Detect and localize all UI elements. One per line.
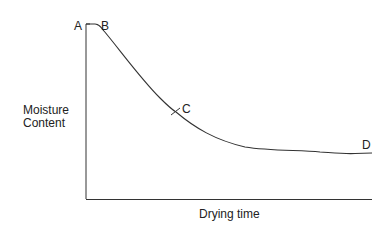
y-axis-label-line2: Content (23, 116, 66, 130)
point-label-c: C (182, 102, 191, 116)
point-label-a: A (74, 19, 82, 33)
x-axis-label: Drying time (199, 207, 260, 221)
drying-curve (86, 24, 372, 154)
y-axis-label-line1: Moisture (23, 103, 69, 117)
point-label-d: D (362, 138, 371, 152)
point-label-b: B (101, 19, 109, 33)
drying-curve-diagram: A B C D Moisture Content Drying time (0, 0, 390, 230)
